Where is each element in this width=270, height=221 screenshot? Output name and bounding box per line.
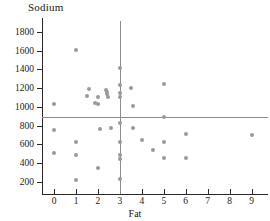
data-point <box>98 127 102 131</box>
x-axis-tick-label: 8 <box>227 196 232 206</box>
data-point <box>129 86 133 90</box>
data-point <box>118 157 122 161</box>
data-point <box>162 140 166 144</box>
data-point <box>131 104 135 108</box>
data-point <box>184 132 188 136</box>
x-axis-tick-label: 1 <box>74 196 79 206</box>
y-axis-tick-label: 400 <box>20 158 34 168</box>
data-point <box>52 128 56 132</box>
mean-fat-reference-line <box>120 21 121 194</box>
x-axis-tick-label: 5 <box>161 196 166 206</box>
data-point <box>131 126 135 130</box>
y-axis-tick-label: 1000 <box>15 102 34 112</box>
data-point <box>118 153 122 157</box>
x-axis-title: Fat <box>0 208 270 219</box>
x-axis-tick <box>164 189 165 194</box>
y-axis-tick-label: 1600 <box>15 46 34 56</box>
y-axis-tick-label: 1800 <box>15 27 34 37</box>
x-axis-tick-label: 9 <box>249 196 254 206</box>
data-point <box>74 140 78 144</box>
data-point <box>118 95 122 99</box>
data-point <box>184 156 188 160</box>
data-point <box>140 138 144 142</box>
data-point <box>118 177 122 181</box>
x-axis-tick-label: 7 <box>205 196 210 206</box>
x-axis-tick-label: 3 <box>118 196 123 206</box>
data-point <box>52 102 56 106</box>
x-axis-tick <box>230 189 231 194</box>
data-point <box>250 133 254 137</box>
data-point <box>118 66 122 70</box>
data-point <box>96 166 100 170</box>
y-axis-line <box>42 18 43 194</box>
data-point <box>85 94 89 98</box>
data-point <box>87 87 91 91</box>
x-axis-tick <box>54 189 55 194</box>
y-axis-tick <box>37 32 42 33</box>
data-point <box>162 156 166 160</box>
x-axis-tick-label: 0 <box>52 196 57 206</box>
y-axis-tick <box>37 51 42 52</box>
data-point <box>52 151 56 155</box>
y-axis-tick <box>37 144 42 145</box>
x-axis-tick <box>142 189 143 194</box>
plot-title: Sodium <box>28 1 63 13</box>
y-axis-tick <box>37 126 42 127</box>
x-axis-tick <box>76 189 77 194</box>
data-point <box>96 95 100 99</box>
x-axis-tick <box>186 189 187 194</box>
data-point <box>118 83 122 87</box>
mean-sodium-reference-line <box>42 117 268 118</box>
x-axis-tick-label: 4 <box>139 196 144 206</box>
y-axis-tick-label: 600 <box>20 139 34 149</box>
y-axis-tick-label: 200 <box>20 177 34 187</box>
data-point <box>106 95 110 99</box>
data-point <box>109 126 113 130</box>
x-axis-tick-label: 6 <box>183 196 188 206</box>
x-axis-tick <box>252 189 253 194</box>
y-axis-tick <box>37 107 42 108</box>
y-axis-tick <box>37 182 42 183</box>
x-axis-tick <box>208 189 209 194</box>
data-point <box>162 82 166 86</box>
y-axis-tick <box>37 163 42 164</box>
y-axis-tick <box>37 69 42 70</box>
data-point <box>74 48 78 52</box>
y-axis-tick-label: 1400 <box>15 64 34 74</box>
data-point <box>118 140 122 144</box>
scatter-plot-figure: Sodium 20040060080010001200140016001800 … <box>0 0 270 221</box>
data-point <box>96 102 100 106</box>
data-point <box>118 121 122 125</box>
y-axis-tick-label: 1200 <box>15 83 34 93</box>
x-axis-tick <box>98 189 99 194</box>
data-point <box>151 148 155 152</box>
x-axis-tick-label: 2 <box>96 196 101 206</box>
data-point <box>162 115 166 119</box>
y-axis-tick-label: 800 <box>20 121 34 131</box>
data-point <box>74 178 78 182</box>
y-axis-tick <box>37 88 42 89</box>
data-point <box>74 153 78 157</box>
